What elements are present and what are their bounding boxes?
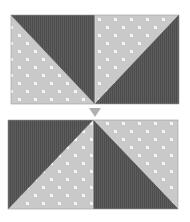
top-left-square bbox=[11, 15, 95, 104]
top-block bbox=[11, 15, 179, 104]
bottom-left-square bbox=[8, 120, 93, 209]
bottom-block bbox=[8, 120, 178, 209]
bottom-right-square bbox=[93, 120, 178, 209]
down-arrow-icon bbox=[89, 108, 101, 117]
top-right-square bbox=[95, 15, 179, 104]
quilt-block-diagram bbox=[0, 0, 190, 222]
